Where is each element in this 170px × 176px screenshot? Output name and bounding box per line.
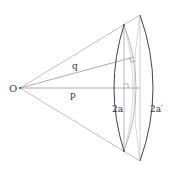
label-outer-chord: 2a′ [150,104,163,114]
cone-lens-diagram: O q p 2a 2a′ [0,0,170,176]
label-p: p [70,90,76,100]
right-angle-marker-q [130,58,135,62]
ray-to-outer-bottom [20,88,140,161]
ray-to-outer-top [20,15,140,88]
label-inner-chord: 2a [112,104,124,114]
right-angle-marker-p [124,84,128,88]
vertex-inner-bottom [123,150,125,152]
vertex-origin [19,87,21,89]
label-q: q [72,61,78,71]
label-origin: O [9,83,17,94]
outer-lens-right-arc [140,15,153,161]
vertex-inner-top [123,24,125,26]
